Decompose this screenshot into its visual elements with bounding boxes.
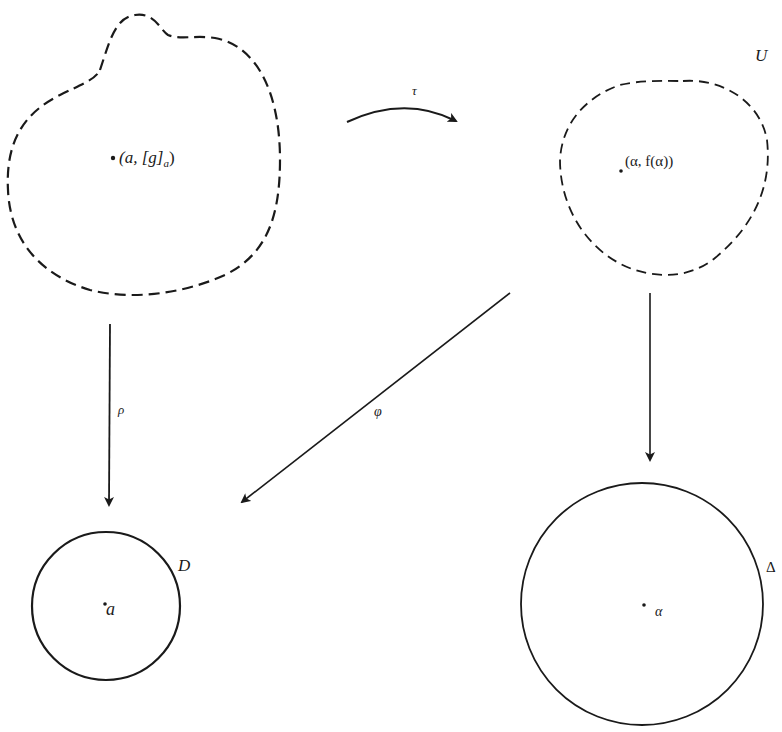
u-point [619, 169, 623, 173]
delta-point-label: α [655, 605, 662, 619]
tau-arrow [347, 108, 456, 122]
u-region-boundary [560, 81, 768, 275]
d-disk-label: D [178, 557, 190, 574]
d-point-label: a [106, 600, 115, 618]
delta-disk [521, 483, 763, 725]
u-region-label: U [755, 47, 767, 64]
commutative-diagram [0, 0, 782, 732]
germ-point [111, 156, 115, 160]
delta-center-point [642, 603, 646, 607]
rho-label: ρ [118, 403, 124, 416]
rho-arrow [109, 324, 110, 505]
phi-label: φ [374, 405, 382, 419]
delta-disk-label: Δ [766, 560, 776, 575]
germ-point-label: (a, [g]a) [119, 149, 175, 169]
phi-arrow [242, 293, 510, 502]
u-point-label: (α, f(α)) [625, 154, 673, 169]
tau-label: τ [412, 84, 417, 97]
